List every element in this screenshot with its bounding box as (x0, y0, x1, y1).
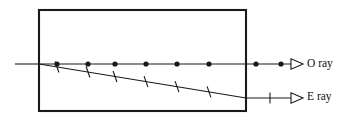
ray-diagram-canvas: O ray E ray (0, 0, 346, 134)
o-ray-polarization-dot (206, 61, 211, 66)
ray-diagram-figure: O ray E ray (0, 0, 346, 134)
crystal-slab (39, 10, 246, 111)
e-ray-label: E ray (307, 90, 332, 103)
o-ray-polarization-dot (174, 61, 179, 66)
o-ray-polarization-dot (85, 61, 90, 66)
o-ray-polarization-dot (278, 61, 283, 66)
o-ray-polarization-dot (143, 61, 148, 66)
o-ray-polarization-dot (112, 61, 117, 66)
o-ray-polarization-dot (253, 61, 258, 66)
o-ray-label: O ray (307, 57, 333, 70)
